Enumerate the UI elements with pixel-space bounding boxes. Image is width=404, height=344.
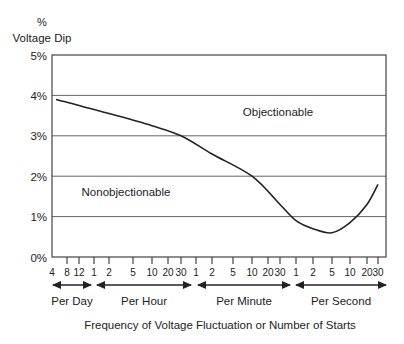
- x-tick-label: 5: [230, 267, 236, 278]
- region-label-nonobjectionable: Nonobjectionable: [82, 186, 171, 198]
- x-tick-label: 2: [209, 267, 215, 278]
- x-tick-label: 4: [49, 267, 55, 278]
- y-tick-label: 5%: [30, 50, 47, 62]
- plot-frame: [52, 55, 386, 257]
- x-tick-label: 1: [91, 267, 97, 278]
- x-tick-label: 5: [329, 267, 335, 278]
- group-label: Per Day: [51, 295, 93, 307]
- y-axis-unit: %: [37, 16, 47, 28]
- y-tick-label: 1%: [30, 211, 47, 223]
- region-label-objectionable: Objectionable: [243, 106, 313, 118]
- y-tick-label: 2%: [30, 171, 47, 183]
- x-axis-group-arrows: Per DayPer HourPer MinutePer Second: [51, 285, 386, 307]
- x-tick-label: 30: [175, 267, 187, 278]
- y-tick-label: 0%: [30, 252, 47, 264]
- group-label: Per Hour: [121, 295, 167, 307]
- x-tick-label: 8: [64, 267, 70, 278]
- x-tick-label: 5: [130, 267, 136, 278]
- x-tick-label: 2: [106, 267, 112, 278]
- x-tick-label: 20: [361, 267, 373, 278]
- x-tick-label: 20: [262, 267, 274, 278]
- x-tick-label: 20: [162, 267, 174, 278]
- x-axis-ticks: 4812125102030125102030125102030: [49, 257, 384, 278]
- x-axis-title: Frequency of Voltage Fluctuation or Numb…: [84, 319, 356, 331]
- y-axis-tick-labels: 0%1%2%3%4%5%: [30, 50, 47, 264]
- x-tick-label: 30: [372, 267, 384, 278]
- x-tick-label: 10: [344, 267, 356, 278]
- group-label: Per Minute: [216, 295, 272, 307]
- group-label: Per Second: [311, 295, 371, 307]
- x-tick-label: 12: [73, 267, 85, 278]
- y-tick-label: 3%: [30, 130, 47, 142]
- x-tick-label: 10: [146, 267, 158, 278]
- y-axis-title: Voltage Dip: [13, 32, 72, 44]
- x-tick-label: 1: [293, 267, 299, 278]
- voltage-dip-chart: % Voltage Dip 0%1%2%3%4%5% 4812125102030…: [0, 0, 404, 344]
- x-tick-label: 1: [193, 267, 199, 278]
- threshold-curve: [56, 99, 378, 233]
- x-tick-label: 10: [246, 267, 258, 278]
- y-tick-label: 4%: [30, 90, 47, 102]
- gridlines: [52, 95, 386, 216]
- x-tick-label: 2: [310, 267, 316, 278]
- x-tick-label: 30: [274, 267, 286, 278]
